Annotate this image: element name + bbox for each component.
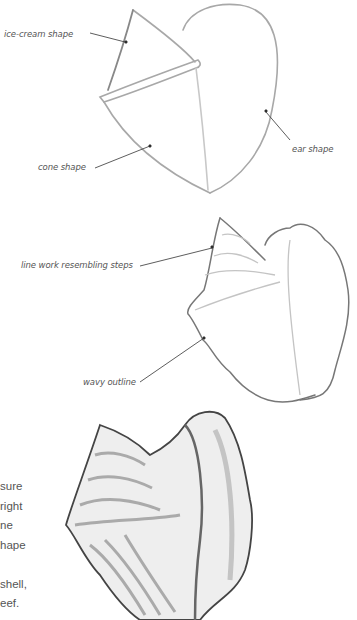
body-line: shell,	[0, 575, 27, 595]
body-line: hape	[0, 536, 27, 556]
body-line: eef.	[0, 594, 27, 614]
label-ear-shape: ear shape	[292, 144, 333, 154]
body-paragraph: sure right ne hape shell, eef.	[0, 477, 27, 614]
body-line: right	[0, 497, 27, 517]
label-cone-shape: cone shape	[38, 162, 86, 172]
stage3-shaded	[66, 412, 252, 620]
stage1-construction	[100, 4, 277, 193]
label-wavy-outline: wavy outline	[83, 377, 136, 387]
shell-sketch-illustration	[0, 0, 357, 620]
label-line-work-steps: line work resembling steps	[21, 260, 133, 270]
body-line	[0, 555, 27, 575]
body-line: ne	[0, 516, 27, 536]
label-ice-cream-shape: ice-cream shape	[4, 29, 73, 39]
body-line: sure	[0, 477, 27, 497]
